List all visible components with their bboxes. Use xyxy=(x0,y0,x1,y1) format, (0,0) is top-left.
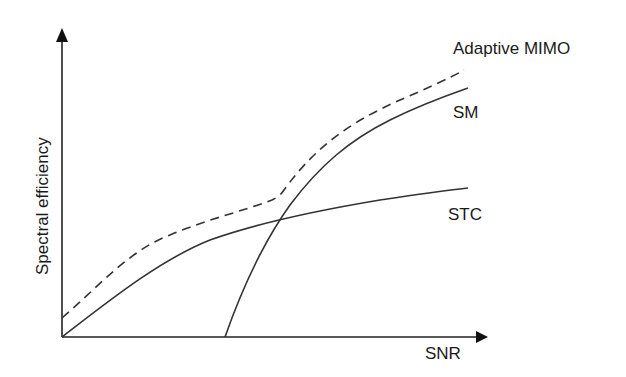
y-axis-label: Spectral efficiency xyxy=(33,137,53,275)
series-adaptive-mimo xyxy=(62,70,464,318)
label-stc: STC xyxy=(448,205,482,225)
series-sm xyxy=(225,88,468,337)
x-axis-label: SNR xyxy=(425,344,461,364)
label-adaptive-mimo: Adaptive MIMO xyxy=(453,39,570,59)
x-axis-arrow-icon xyxy=(476,331,488,343)
label-sm: SM xyxy=(453,103,479,123)
y-axis-arrow-icon xyxy=(56,28,68,42)
